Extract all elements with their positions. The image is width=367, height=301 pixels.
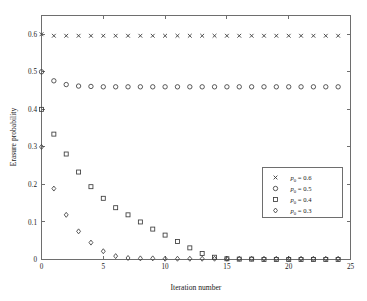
x-tick-label: 15 [223,263,231,271]
chart-canvas: 0510152025 00.10.20.30.40.50.6 Iteration… [0,0,367,301]
y-tick-label: 0 [33,256,37,264]
x-tick-label: 25 [347,263,355,271]
y-tick-label: 0.6 [28,31,37,39]
x-axis-title: Iteration number [171,283,222,292]
x-tick-label: 5 [102,263,106,271]
y-tick-label: 0.1 [28,219,37,227]
y-tick-label: 0.3 [28,143,37,151]
x-tick-label: 20 [285,263,293,271]
y-tick-label: 0.5 [28,68,37,76]
x-tick-label: 0 [40,263,44,271]
x-tick-label: 10 [162,263,170,271]
y-axis-title: Erasure probability [9,108,18,167]
y-tick-label: 0.2 [28,181,37,189]
erasure-probability-chart: 0510152025 00.10.20.30.40.50.6 Iteration… [0,0,367,301]
chart-background [0,0,367,301]
y-tick-label: 0.4 [28,106,37,114]
chart-legend: p0 = 0.6p0 = 0.5p0 = 0.4p0 = 0.3 [263,168,343,218]
